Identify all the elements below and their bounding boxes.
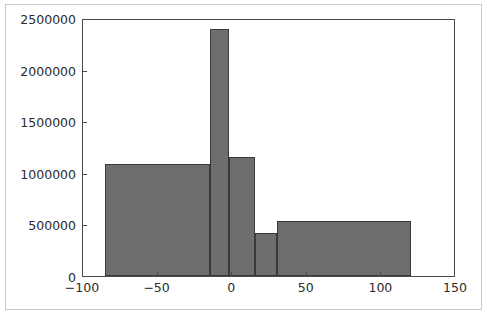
x-axis-tick-mark xyxy=(157,272,158,277)
x-axis-tick-label: 50 xyxy=(298,280,314,295)
y-axis-tick-label: 1500000 xyxy=(20,116,76,129)
histogram-bar xyxy=(210,29,229,276)
x-axis-tick-label: 0 xyxy=(227,280,235,295)
bars-layer xyxy=(83,20,454,276)
y-axis-tick-label: 2500000 xyxy=(20,13,76,26)
y-axis-tick-mark xyxy=(82,174,87,175)
x-axis-tick-mark xyxy=(306,272,307,277)
histogram-figure: 05000001000000150000020000002500000 −100… xyxy=(0,0,487,315)
histogram-bar xyxy=(105,164,209,276)
y-axis-tick-mark xyxy=(82,225,87,226)
histogram-bar xyxy=(229,157,254,276)
x-axis-tick-label: 150 xyxy=(443,280,467,295)
histogram-bar xyxy=(255,233,277,276)
y-axis-tick-label: 500000 xyxy=(28,219,76,232)
x-axis-tick-mark xyxy=(231,272,232,277)
x-axis-tick-label: −100 xyxy=(65,280,99,295)
x-axis-tick-label: −50 xyxy=(143,280,169,295)
plot-area xyxy=(82,19,455,277)
y-axis-tick-label: 1000000 xyxy=(20,167,76,180)
y-axis-tick-label: 2000000 xyxy=(20,64,76,77)
x-axis-tick-labels: −100−50050100150 xyxy=(0,280,487,304)
y-axis-tick-mark xyxy=(82,122,87,123)
x-axis-tick-mark xyxy=(380,272,381,277)
y-axis-tick-mark xyxy=(82,71,87,72)
x-axis-tick-label: 100 xyxy=(368,280,392,295)
y-axis-tick-labels: 05000001000000150000020000002500000 xyxy=(0,0,76,315)
histogram-bar xyxy=(277,221,411,276)
